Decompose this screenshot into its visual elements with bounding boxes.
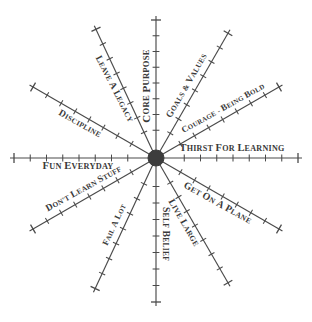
spoke-tick [74,108,77,114]
spoke-tick [130,141,133,147]
spoke-tick [192,224,198,227]
spoke-tick [176,117,182,120]
spoke-tick [193,133,196,139]
spoke-tick [249,100,252,106]
axis-spoke-1 [151,16,161,156]
center-hub [148,150,164,166]
spoke-tick [116,177,119,183]
spoke-endcap [91,286,100,290]
axis-label-self-belief: SELF BELIEF [161,207,172,261]
spoke-tick [217,267,223,270]
spoke-tick [102,185,105,191]
spoke-tick [45,218,48,224]
spoke-tick [235,202,238,208]
spoke-endcap [91,27,100,31]
spoke-tick [184,103,190,106]
axis-label-leave-a-legacy: LEAVE A LEGACY [94,54,136,124]
spoke-endcap [31,225,36,234]
wheel-of-life-diagram: CORE PURPOSEGOALS & VALUESCOURAGE - BEIN… [0,0,312,322]
spoke-tick [88,117,91,123]
axis-label-live-large: LIVE LARGE [166,197,202,248]
axis-label-fun-everyday: FUN EVERYDAY [42,159,113,171]
spoke-tick [88,194,91,200]
axis-spoke-4 [158,153,302,163]
spoke-line [157,30,230,156]
spoke-endcap [224,280,233,285]
spoke-tick [263,92,266,98]
spoke-tick [116,133,119,139]
spoke-tick [45,92,48,98]
axis-spoke-11 [30,83,155,157]
spoke-tick [130,169,133,175]
spoke-tick [263,218,266,224]
spoke-line [158,159,283,231]
spoke-endcap [276,83,281,92]
spoke-tick [74,202,77,208]
spoke-tick [200,238,206,241]
spoke-tick [207,125,210,131]
spoke-tick [200,74,206,77]
spoke-tick [209,252,215,255]
axis-spoke-2 [157,30,232,156]
radial-diagram-canvas: CORE PURPOSEGOALS & VALUESCOURAGE - BEIN… [0,0,312,322]
axis-label-thirst-for-learning: THIRST FOR LEARNING [179,142,285,153]
axis-label-get-on-a-plane: GET ON A PLANE [182,179,254,226]
spoke-tick [59,210,62,216]
spoke-tick [221,117,224,123]
spoke-tick [217,46,223,49]
axis-label-core-purpose: CORE PURPOSE [140,49,152,122]
axis-label-goals-values: GOALS & VALUES [164,52,209,120]
spoke-endcap [31,83,36,92]
spoke-endcap [276,225,281,234]
spoke-tick [209,60,215,63]
axis-spoke-7 [151,160,161,306]
spoke-line [30,85,155,157]
spoke-tick [192,89,198,92]
spoke-endcap [224,31,233,36]
axis-label-fail-a-lot: FAIL A LOT [100,202,128,247]
spoke-tick [167,181,173,184]
spoke-tick [179,169,182,175]
spoke-tick [167,132,173,135]
spoke-tick [184,210,190,213]
spoke-tick [59,100,62,106]
spoke-tick [235,108,238,114]
